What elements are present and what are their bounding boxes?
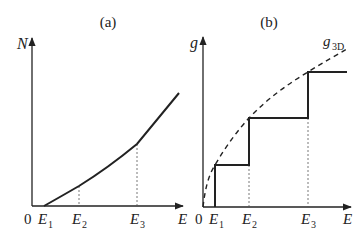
tick-e2: E 2 bbox=[71, 211, 87, 230]
svg-text:E: E bbox=[208, 211, 218, 227]
svg-text:E: E bbox=[37, 211, 47, 227]
tick-e3: E 3 bbox=[129, 211, 145, 230]
tick-e1: E 1 bbox=[208, 211, 224, 230]
x-axis-label: E bbox=[177, 211, 187, 227]
svg-text:3: 3 bbox=[140, 219, 145, 230]
figure: (a) N E 0 E 1 E 2 E 3 (b) g E bbox=[0, 0, 362, 236]
svg-text:E: E bbox=[241, 211, 251, 227]
tick-e3: E 3 bbox=[300, 211, 316, 230]
g-step-curve bbox=[215, 72, 347, 207]
panel-a-title: (a) bbox=[100, 14, 117, 31]
svg-text:3: 3 bbox=[311, 219, 316, 230]
svg-text:E: E bbox=[71, 211, 81, 227]
origin-label: 0 bbox=[24, 211, 32, 227]
svg-text:g: g bbox=[323, 33, 331, 49]
svg-text:E: E bbox=[129, 211, 139, 227]
g3d-label: g 3D bbox=[323, 33, 344, 52]
svg-text:E: E bbox=[300, 211, 310, 227]
svg-text:2: 2 bbox=[252, 219, 257, 230]
y-axis-label: N bbox=[16, 35, 29, 52]
svg-text:1: 1 bbox=[219, 219, 224, 230]
panel-b-title: (b) bbox=[260, 14, 278, 31]
x-axis-label: E bbox=[342, 211, 352, 227]
n-curve bbox=[44, 93, 179, 206]
origin-label: 0 bbox=[195, 211, 203, 227]
tick-e2: E 2 bbox=[241, 211, 257, 230]
panel-b: (b) g E 0 g 3D E 1 E 2 E 3 bbox=[190, 14, 352, 230]
tick-e1: E 1 bbox=[37, 211, 53, 230]
y-axis-label: g bbox=[190, 34, 198, 52]
svg-text:3D: 3D bbox=[332, 41, 344, 52]
svg-text:2: 2 bbox=[82, 219, 87, 230]
panel-a: (a) N E 0 E 1 E 2 E 3 bbox=[16, 14, 187, 230]
svg-text:1: 1 bbox=[48, 219, 53, 230]
